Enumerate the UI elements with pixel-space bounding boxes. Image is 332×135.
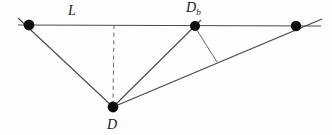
label-db-base: D [186, 0, 196, 15]
geometry-figure: L Db D [0, 0, 332, 135]
height-dashed-line [113, 25, 114, 104]
baseline-label-L: L [68, 4, 76, 18]
figure-canvas [0, 0, 332, 135]
baseline-L-line [18, 25, 321, 26]
right-node [291, 21, 301, 31]
long-leg-line [113, 19, 322, 107]
baseline-node-db [190, 21, 200, 31]
baseline-node-label-db: Db [186, 1, 201, 17]
left-leg-line [18, 18, 113, 107]
label-db-subscript: b [196, 7, 201, 17]
left-node [24, 20, 35, 31]
apex-label-d: D [107, 118, 117, 132]
perpendicular-line [195, 27, 217, 62]
mid-leg-line [113, 20, 201, 107]
apex-node-d [108, 102, 119, 113]
